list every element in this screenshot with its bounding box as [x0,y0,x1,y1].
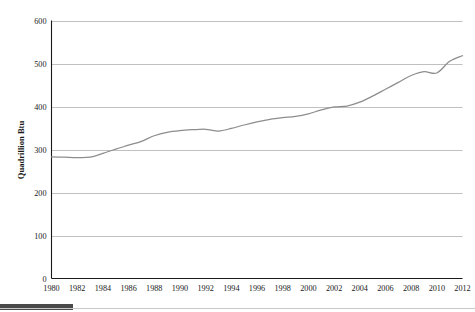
x-tick-label-1994: 1994 [223,284,239,293]
x-tick-label-2004: 2004 [352,284,368,293]
y-tick-label-300: 300 [34,146,46,155]
x-tick-label-2006: 2006 [377,284,393,293]
x-tick-label-1982: 1982 [69,284,85,293]
chart-canvas: 0100200300400500600 19801982198419861988… [0,0,475,312]
y-tick-label-100: 100 [34,232,46,241]
y-axis-title: Quadrillion Btu [16,121,26,180]
chart-background [0,0,475,312]
y-tick-label-400: 400 [34,103,46,112]
x-tick-label-1990: 1990 [172,284,188,293]
x-tick-label-1980: 1980 [43,284,59,293]
x-tick-label-1988: 1988 [146,284,162,293]
line-chart-figure: 0100200300400500600 19801982198419861988… [0,0,475,312]
x-tick-label-2002: 2002 [326,284,342,293]
x-tick-label-1992: 1992 [197,284,213,293]
x-tick-label-2000: 2000 [300,284,316,293]
footer-divider-rule [0,308,475,309]
x-tick-label-2010: 2010 [429,284,445,293]
x-tick-label-2012: 2012 [454,284,470,293]
x-tick-label-1996: 1996 [249,284,265,293]
y-tick-label-0: 0 [42,275,46,284]
x-axis-tick-labels-group: 1980198219841986198819901992199419961998… [43,284,470,293]
y-tick-label-200: 200 [34,189,46,198]
x-tick-label-1986: 1986 [120,284,136,293]
y-tick-label-500: 500 [34,60,46,69]
x-tick-label-1998: 1998 [275,284,291,293]
footer-accent-bar [0,304,73,310]
x-tick-label-1984: 1984 [95,284,111,293]
x-tick-label-2008: 2008 [403,284,419,293]
y-tick-label-600: 600 [34,17,46,26]
